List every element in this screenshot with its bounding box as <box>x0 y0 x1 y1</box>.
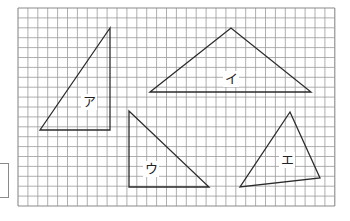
triangle-u: ウ <box>129 111 209 187</box>
grid-lines <box>18 8 335 206</box>
answer-box[interactable] <box>0 163 9 198</box>
triangle-a: ア <box>40 28 110 130</box>
triangle-grid-diagram: ア イ ウ エ <box>0 0 350 221</box>
triangle-a-label: ア <box>83 94 96 109</box>
triangle-i-label: イ <box>225 71 238 86</box>
triangles: ア イ ウ エ <box>40 28 320 187</box>
triangle-e: エ <box>240 112 320 187</box>
triangle-u-label: ウ <box>145 161 158 176</box>
triangle-a-shape <box>40 28 110 130</box>
triangle-u-shape <box>129 111 209 187</box>
grid-canvas: ア イ ウ エ <box>0 0 350 221</box>
triangle-e-shape <box>240 112 320 187</box>
triangle-e-label: エ <box>281 152 294 167</box>
